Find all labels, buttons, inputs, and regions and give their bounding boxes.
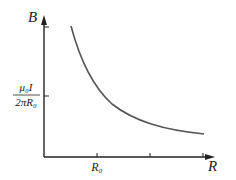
plot-area: B R μ₀I 2πR₀ R₀ [0,0,236,180]
y-axis-label: B [28,9,37,25]
curve-b-vs-r [71,26,204,134]
x-tick-label-1: R₀ [90,160,103,174]
y-tick-label-denominator: 2πR₀ [15,96,37,108]
x-axis-label: R [207,158,217,174]
y-axis-arrow-icon [41,15,47,25]
y-tick-label-numerator: μ₀I [18,81,33,93]
